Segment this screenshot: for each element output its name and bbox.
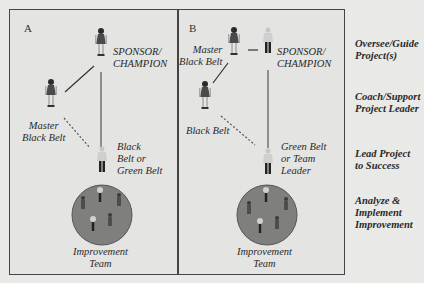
- panel-b-letter: B: [189, 22, 196, 34]
- panel-b-leader-label: Green Beltor TeamLeader: [281, 141, 326, 177]
- panel-b-master-label: MasterBlack Belt: [179, 44, 222, 68]
- panel-a-team-label: ImprovementTeam: [73, 246, 128, 270]
- master-black-belt-figure: [45, 79, 57, 107]
- sponsor-figure: [263, 28, 273, 54]
- leader-figure: [97, 147, 107, 173]
- panel-b-black-belt-label: Black Belt: [186, 125, 229, 137]
- panel-a-leader-label: BlackBelt orGreen Belt: [117, 141, 162, 177]
- panel-b-sponsor-label: SPONSOR/CHAMPION: [277, 46, 331, 70]
- panel-b-team-label: ImprovementTeam: [237, 246, 292, 270]
- panel-a-master-label: MasterBlack Belt: [22, 120, 65, 144]
- role-analyze: Analyze &ImplementImprovement: [355, 195, 413, 231]
- leader-figure: [263, 149, 273, 175]
- role-oversee: Oversee/GuideProject(s): [355, 38, 419, 62]
- black-belt-figure: [199, 81, 211, 109]
- panel-a-letter: A: [24, 22, 32, 34]
- master-black-belt-figure: [228, 27, 240, 55]
- panel-a-sponsor-label: SPONSOR/CHAMPION: [113, 46, 167, 70]
- role-coach: Coach/SupportProject Leader: [355, 91, 420, 115]
- role-lead: Lead Projectto Success: [355, 148, 410, 172]
- sponsor-figure: [95, 28, 107, 56]
